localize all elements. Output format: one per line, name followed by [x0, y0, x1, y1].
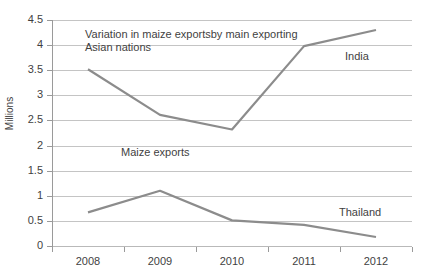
- x-axis-tick: [268, 247, 269, 252]
- x-axis-tick: [196, 247, 197, 252]
- y-axis-tick-label: 3.5: [3, 64, 43, 75]
- x-axis-tick-label: 2012: [346, 256, 406, 267]
- y-axis-tick-label: 2: [3, 140, 43, 151]
- y-axis-tick-label: 3: [3, 89, 43, 100]
- x-axis-tick: [340, 247, 341, 252]
- y-axis-tick-label: 1.5: [3, 165, 43, 176]
- x-axis-tick-label: 2010: [202, 256, 262, 267]
- y-axis-tick-label: 4.5: [3, 14, 43, 25]
- series-line-thailand: [88, 191, 376, 237]
- gridline: [52, 246, 412, 247]
- x-axis-tick-label: 2008: [58, 256, 118, 267]
- thailand-series-label: Thailand: [339, 206, 381, 219]
- maize-exports-label: Maize exports: [121, 146, 189, 159]
- india-series-label: India: [345, 50, 369, 63]
- y-axis-tick-label: 2.5: [3, 114, 43, 125]
- y-axis-tick-label: 4: [3, 39, 43, 50]
- line-chart: Millions 00.511.522.533.544.5 2008200920…: [0, 0, 424, 276]
- x-axis-tick-label: 2009: [130, 256, 190, 267]
- chart-title: Variation in maize exportsby main export…: [85, 28, 305, 54]
- x-axis-tick: [412, 247, 413, 252]
- x-axis-tick: [52, 247, 53, 252]
- x-axis-tick: [124, 247, 125, 252]
- y-axis-tick-label: 0: [3, 240, 43, 251]
- y-axis-tick-label: 0.5: [3, 215, 43, 226]
- x-axis-tick-label: 2011: [274, 256, 334, 267]
- y-axis-tick-label: 1: [3, 190, 43, 201]
